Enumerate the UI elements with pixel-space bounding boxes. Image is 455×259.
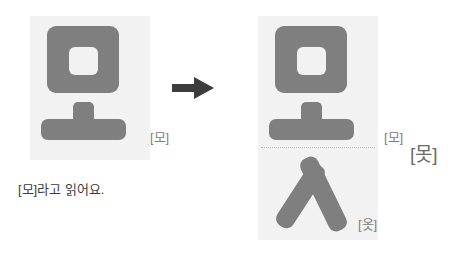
arrow-right-icon — [172, 76, 216, 100]
left-reading-label: [모] — [150, 131, 169, 144]
diagram-canvas: [모] [모]라고 읽어요. [모] [못] [옷] — [0, 0, 455, 259]
left-syllable-panel — [30, 16, 150, 160]
right-top-reading-label: [모] — [384, 131, 403, 144]
right-syllable-panel — [258, 16, 378, 240]
syllable-divider — [261, 147, 375, 148]
o-jamo-bar-right — [269, 119, 354, 140]
mieum-counter-right — [297, 47, 326, 75]
mieum-counter-left — [69, 47, 98, 75]
right-bottom-reading-label: [옷] — [358, 218, 377, 231]
left-caption: [모]라고 읽어요. — [18, 183, 104, 196]
right-result-reading-label: [못] — [410, 145, 438, 164]
mieum-jamo-left — [47, 26, 119, 93]
mieum-jamo-right — [275, 26, 347, 93]
o-jamo-bar-left — [41, 119, 126, 140]
